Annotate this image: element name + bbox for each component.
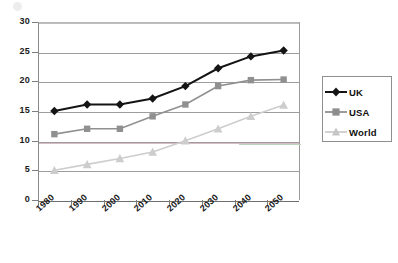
legend-item-usa[interactable]: USA bbox=[323, 102, 391, 122]
data-point bbox=[117, 126, 123, 132]
chart-legend: UK USA World bbox=[322, 76, 392, 142]
legend-label-world: World bbox=[349, 127, 377, 138]
data-point bbox=[181, 82, 189, 90]
square-marker-icon bbox=[323, 102, 349, 122]
legend-item-uk[interactable]: UK bbox=[323, 82, 391, 102]
series-world bbox=[50, 101, 288, 174]
data-point bbox=[215, 83, 221, 89]
triangle-marker-icon bbox=[323, 122, 349, 142]
legend-label-uk: UK bbox=[349, 87, 363, 98]
data-point bbox=[51, 131, 57, 137]
data-point bbox=[83, 100, 91, 108]
data-point bbox=[84, 126, 90, 132]
data-point bbox=[116, 100, 124, 108]
data-point bbox=[50, 107, 58, 115]
data-point bbox=[148, 94, 156, 102]
data-point bbox=[247, 52, 255, 60]
data-point bbox=[182, 101, 188, 107]
data-point bbox=[280, 76, 286, 82]
data-point bbox=[279, 46, 287, 54]
data-point bbox=[248, 77, 254, 83]
legend-item-world[interactable]: World bbox=[323, 122, 391, 142]
legend-label-usa: USA bbox=[349, 107, 370, 118]
data-point bbox=[214, 64, 222, 72]
data-point bbox=[279, 101, 288, 109]
series-line bbox=[54, 105, 283, 170]
data-point bbox=[149, 113, 155, 119]
chart-container: 051015202530 198019902000201020202030204… bbox=[0, 0, 398, 263]
diamond-marker-icon bbox=[323, 82, 349, 102]
